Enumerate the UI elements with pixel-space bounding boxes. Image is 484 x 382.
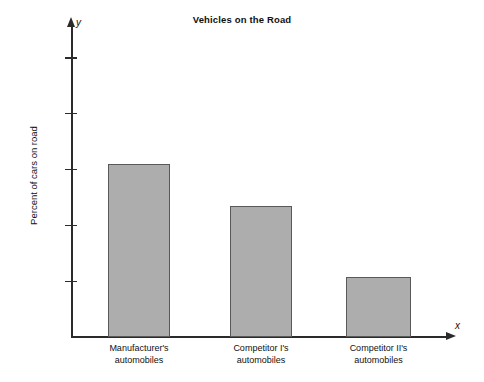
x-tick-label-line: Competitor II's [309, 343, 449, 355]
y-axis-symbol: y [76, 17, 81, 28]
y-tick-mark [65, 57, 77, 58]
bar [346, 277, 411, 337]
x-tick-label-line: automobiles [309, 355, 449, 367]
bar [230, 206, 292, 337]
y-axis-title: Percent of cars on road [28, 101, 39, 251]
x-tick-label: Competitor II'sautomobiles [309, 343, 449, 366]
y-tick-mark [65, 281, 77, 282]
y-tick-mark [65, 113, 77, 114]
plot-area: y x Percent of cars on road 100999897969… [0, 0, 484, 382]
y-axis-arrow-icon [67, 17, 75, 27]
x-tick-label: Manufacturer'sautomobiles [69, 343, 209, 366]
x-tick-label-line: automobiles [69, 355, 209, 367]
y-axis-line [71, 26, 73, 338]
bar [108, 164, 170, 337]
x-axis-arrow-icon [446, 332, 456, 340]
y-tick-mark [65, 225, 77, 226]
chart-figure: Vehicles on the Road y x Percent of cars… [0, 0, 484, 382]
x-tick-label-line: Manufacturer's [69, 343, 209, 355]
y-tick-mark [65, 169, 77, 170]
x-axis-symbol: x [455, 320, 460, 331]
